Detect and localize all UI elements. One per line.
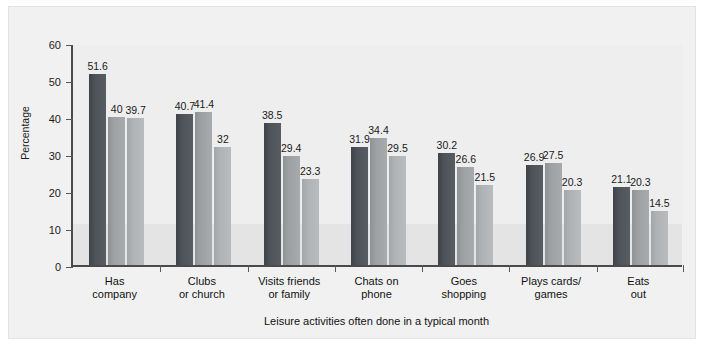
x-axis-category-label: Hascompany [92, 275, 137, 301]
bar-value-label: 32 [217, 134, 229, 145]
x-tick-mark [683, 265, 684, 272]
bar-value-label: 31.9 [349, 134, 369, 145]
x-axis-category-line: Plays cards/ [521, 275, 581, 288]
y-tick-label: 20 [49, 187, 61, 199]
y-tick-mark [66, 267, 73, 268]
x-axis-category-line: games [521, 288, 581, 301]
bar[interactable]: 32 [214, 147, 231, 265]
y-tick-mark [66, 156, 73, 157]
x-axis-category-line: Goes [441, 275, 486, 288]
bar-value-label: 14.5 [649, 198, 669, 209]
bar-value-label: 26.9 [524, 152, 544, 163]
bar[interactable]: 38.5 [264, 123, 281, 265]
bar-value-label: 38.5 [262, 110, 282, 121]
bar[interactable]: 14.5 [651, 211, 668, 265]
x-axis-labels: HascompanyClubsor churchVisits friendsor… [71, 271, 682, 307]
bar-value-label: 30.2 [437, 140, 457, 151]
y-tick-mark [66, 193, 73, 194]
x-axis-category-label: Plays cards/games [521, 275, 581, 301]
bar-value-label: 29.5 [387, 143, 407, 154]
bar-value-label: 21.1 [611, 174, 631, 185]
bar[interactable]: 26.6 [457, 167, 474, 265]
y-tick-mark [66, 45, 73, 46]
y-tick-mark [66, 119, 73, 120]
bar-value-label: 29.4 [281, 143, 301, 154]
bar[interactable]: 39.7 [127, 118, 144, 265]
bar-value-label: 21.5 [475, 172, 495, 183]
bar-value-label: 40.7 [175, 101, 195, 112]
x-axis-category-label: Goesshopping [441, 275, 486, 301]
bar[interactable]: 30.2 [438, 153, 455, 265]
x-axis-category-line: shopping [441, 288, 486, 301]
bar-group: 38.529.423.3 [264, 45, 319, 265]
bar[interactable]: 34.4 [370, 138, 387, 265]
y-tick-label: 40 [49, 113, 61, 125]
bar-value-label: 27.5 [543, 150, 563, 161]
bar[interactable]: 20.3 [564, 190, 581, 265]
y-axis-title: Percentage [19, 93, 31, 173]
bar-value-label: 40 [111, 104, 123, 115]
y-tick-label: 10 [49, 224, 61, 236]
bar-value-label: 20.3 [630, 177, 650, 188]
x-axis-category-line: Clubs [179, 275, 225, 288]
bar-value-label: 34.4 [368, 125, 388, 136]
bar[interactable]: 40 [108, 117, 125, 265]
bar-group: 31.934.429.5 [351, 45, 406, 265]
bar-value-label: 51.6 [87, 61, 107, 72]
x-axis-category-label: Visits friendsor family [258, 275, 320, 301]
chart-figure: 65–7475–8485+ 0102030405060 Percentage 5… [0, 0, 702, 345]
x-axis-category-label: Eatsout [627, 275, 649, 301]
x-axis-category-line: phone [354, 288, 398, 301]
bar[interactable]: 21.5 [476, 185, 493, 265]
bar[interactable]: 51.6 [89, 74, 106, 265]
x-axis-category-label: Clubsor church [179, 275, 225, 301]
bar[interactable]: 40.7 [176, 114, 193, 265]
y-tick-label: 50 [49, 76, 61, 88]
bar-value-label: 23.3 [300, 166, 320, 177]
y-tick-label: 60 [49, 39, 61, 51]
bar[interactable]: 29.5 [389, 156, 406, 265]
y-tick-label: 30 [49, 150, 61, 162]
bar[interactable]: 27.5 [545, 163, 562, 265]
bar-group: 30.226.621.5 [438, 45, 493, 265]
y-tick-mark [66, 82, 73, 83]
bar[interactable]: 29.4 [283, 156, 300, 265]
x-axis-category-line: Has [92, 275, 137, 288]
bar[interactable]: 31.9 [351, 147, 368, 265]
x-axis-category-line: Visits friends [258, 275, 320, 288]
x-axis-category-line: Chats on [354, 275, 398, 288]
x-axis-category-line: Eats [627, 275, 649, 288]
y-tick-mark [66, 230, 73, 231]
x-axis-category-line: or family [258, 288, 320, 301]
y-tick-label: 0 [55, 261, 61, 273]
x-axis-category-label: Chats onphone [354, 275, 398, 301]
bar[interactable]: 21.1 [613, 187, 630, 265]
bar-group: 40.741.432 [176, 45, 231, 265]
x-axis-category-line: out [627, 288, 649, 301]
chart-panel: 65–7475–8485+ 0102030405060 Percentage 5… [8, 6, 696, 339]
bar-group: 26.927.520.3 [526, 45, 581, 265]
bar-value-label: 20.3 [562, 177, 582, 188]
bar-group: 21.120.314.5 [613, 45, 668, 265]
x-axis-category-line: or church [179, 288, 225, 301]
bar[interactable]: 41.4 [195, 112, 212, 265]
bar-value-label: 26.6 [456, 154, 476, 165]
bar[interactable]: 23.3 [302, 179, 319, 265]
bar-group: 51.64039.7 [89, 45, 144, 265]
bar[interactable]: 26.9 [526, 165, 543, 265]
bar-value-label: 41.4 [194, 99, 214, 110]
plot-area: 51.64039.740.741.43238.529.423.331.934.4… [71, 45, 682, 267]
bar[interactable]: 20.3 [632, 190, 649, 265]
bar-value-label: 39.7 [125, 105, 145, 116]
x-axis-title: Leisure activities often done in a typic… [71, 315, 682, 327]
x-axis-category-line: company [92, 288, 137, 301]
y-axis: 0102030405060 [9, 45, 61, 267]
